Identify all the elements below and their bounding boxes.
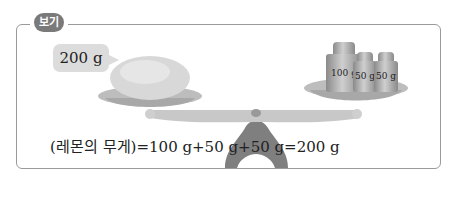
balance-scale-illustration	[0, 0, 461, 201]
weight-bubble: 200 g	[53, 44, 109, 72]
weight-formula: (레몬의 무게)=100 g+50 g+50 g=200 g	[50, 135, 340, 156]
weight-50g-b: 50 g	[374, 61, 398, 92]
